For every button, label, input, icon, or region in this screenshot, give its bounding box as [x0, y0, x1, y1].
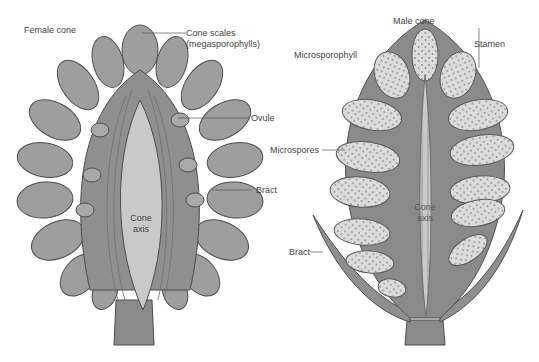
female-cone-figure: [14, 25, 265, 345]
microsporophyll-label: Microsporophyll: [294, 50, 357, 60]
female-cone-stalk: [114, 300, 154, 345]
female-bract-label: Bract: [256, 185, 277, 195]
male-cone-stalk: [405, 320, 445, 345]
ovule-label: Ovule: [251, 113, 275, 123]
female-cone-title: Female cone: [24, 25, 76, 35]
male-cone-axis-label-2: axis: [410, 213, 440, 223]
female-cone-axis-label-1: Cone: [126, 213, 156, 223]
megasporophylls-label: (megasporophylls): [186, 39, 260, 49]
male-cone-figure: [313, 20, 523, 345]
cone-scales-label: Cone scales: [186, 28, 236, 38]
cone-diagram: [0, 0, 539, 362]
microspores-label: Microspores: [270, 145, 319, 155]
female-cone-axis-label-2: axis: [126, 224, 156, 234]
male-bract-label: Bract: [289, 247, 310, 257]
male-cone-title: Male cone: [393, 16, 435, 26]
male-cone-axis-label-1: Cone: [410, 202, 440, 212]
stamen-label: Stamen: [474, 39, 505, 49]
